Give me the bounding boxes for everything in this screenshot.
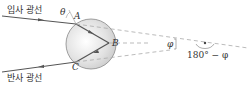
incident-ray-label: 입사 광선	[7, 3, 42, 16]
point-a-label: A	[74, 11, 81, 21]
supplement-angle-label: 180° − φ	[187, 50, 228, 60]
point-c-label: C	[72, 62, 79, 72]
reflected-ray-label: 반사 광선	[7, 71, 42, 84]
theta-label: θ	[60, 7, 65, 17]
phi-bracket	[174, 39, 176, 49]
incident-ray	[2, 16, 76, 24]
phi-label: φ	[167, 39, 173, 49]
point-b-label: B	[112, 38, 119, 48]
